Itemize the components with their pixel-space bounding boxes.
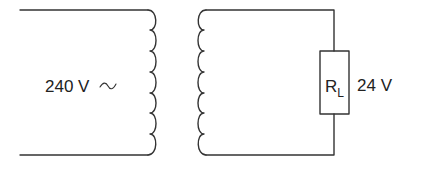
secondary-voltage-label: 24 V: [357, 76, 393, 95]
transformer-diagram: 240 V RL 24 V: [0, 0, 422, 173]
primary-circuit: 240 V: [20, 10, 156, 155]
secondary-coil-icon: [198, 10, 206, 155]
resistor-label: RL: [325, 77, 344, 100]
secondary-bottom-wire: [206, 114, 334, 155]
primary-coil-icon: [148, 10, 156, 155]
resistor-symbol: R: [325, 77, 337, 96]
secondary-circuit: RL 24 V: [198, 10, 393, 155]
resistor-subscript: L: [337, 86, 344, 100]
primary-voltage-label: 240 V: [45, 77, 90, 96]
ac-sine-icon: [100, 83, 116, 89]
secondary-top-wire: [206, 10, 334, 51]
